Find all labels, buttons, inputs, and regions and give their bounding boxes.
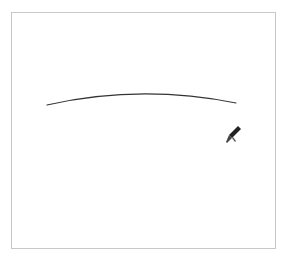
pen-cursor-icon — [224, 125, 242, 145]
drawn-stroke-layer — [0, 0, 288, 262]
drawn-arc-stroke — [47, 94, 236, 105]
